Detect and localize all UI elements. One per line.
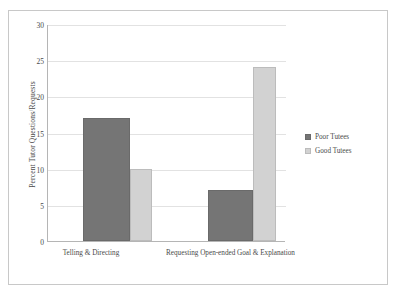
plot-area: 051015202530 Telling & DirectingRequesti… [47, 25, 285, 242]
y-axis-tick-label: 30 [37, 21, 45, 30]
gridline [48, 61, 286, 62]
bar [130, 169, 152, 241]
y-axis-tick-label: 10 [37, 165, 45, 174]
y-axis-tick-label: 20 [37, 93, 45, 102]
bar [83, 118, 130, 241]
y-axis-tick-label: 25 [37, 57, 45, 66]
y-axis-tick-label: 15 [37, 129, 45, 138]
chart-legend: Poor TuteesGood Tutees [305, 133, 352, 161]
gridline [48, 97, 286, 98]
y-axis-tick-label: 0 [40, 238, 44, 247]
chart-figure: Percent Tutor Questions/Requests 0510152… [0, 0, 398, 299]
legend-label: Good Tutees [315, 147, 352, 155]
x-axis-category-label: Requesting Open-ended Goal & Explanation [148, 248, 313, 258]
bar [253, 67, 276, 241]
legend-swatch-icon [305, 148, 311, 154]
bar [208, 190, 253, 241]
legend-swatch-icon [305, 134, 311, 140]
legend-item: Poor Tutees [305, 133, 352, 141]
gridline [48, 25, 286, 26]
legend-label: Poor Tutees [315, 133, 349, 141]
legend-item: Good Tutees [305, 147, 352, 155]
y-axis-title: Percent Tutor Questions/Requests [28, 40, 37, 230]
x-axis-category-label: Telling & Directing [26, 248, 156, 258]
y-axis-tick-label: 5 [40, 201, 44, 210]
